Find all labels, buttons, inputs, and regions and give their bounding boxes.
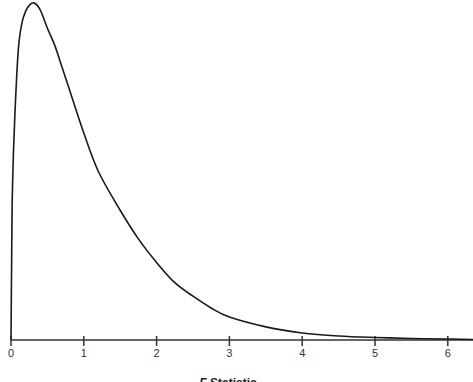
- x-axis: 0123456: [8, 336, 473, 359]
- x-tick-label: 1: [81, 347, 87, 359]
- x-tick-label: 0: [8, 347, 14, 359]
- x-axis-title-text: Statistic: [207, 376, 257, 382]
- x-tick-label: 4: [299, 347, 305, 359]
- x-tick-label: 5: [372, 347, 378, 359]
- x-tick-label: 6: [445, 347, 451, 359]
- density-curve: [11, 3, 473, 340]
- x-tick-label: 3: [226, 347, 232, 359]
- f-distribution-chart: 0123456 F Statistic: [0, 0, 473, 382]
- x-tick-label: 2: [154, 347, 160, 359]
- x-axis-title: F Statistic: [199, 376, 257, 382]
